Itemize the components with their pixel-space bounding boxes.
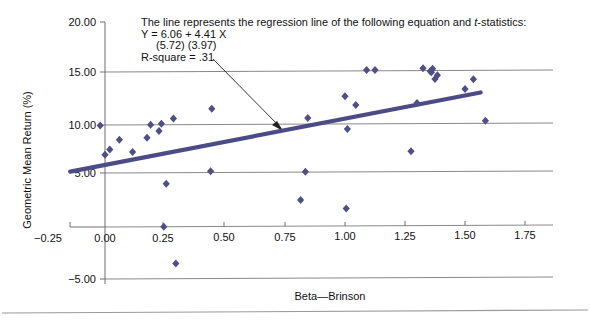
data-point-marker xyxy=(97,122,104,130)
scatter-chart-figure: 20.00 15.00 10.00 5.00 −5.00 −0.25 0.00 … xyxy=(0,0,590,320)
data-point-marker xyxy=(101,151,108,159)
annotation-leader-arrow xyxy=(213,59,283,131)
annotation-line-1-suffix: -statistics: xyxy=(477,16,526,28)
y-tick-label-neg5: −5.00 xyxy=(68,273,96,285)
bottom-divider xyxy=(2,310,588,313)
x-tick-label-1.00: 1.00 xyxy=(334,230,355,242)
gridline-0 xyxy=(105,225,553,227)
leader-line xyxy=(213,59,281,128)
chart-svg: 20.00 15.00 10.00 5.00 −5.00 −0.25 0.00 … xyxy=(0,0,590,320)
y-axis-title: Geometric Mean Return (%) xyxy=(21,91,33,229)
data-point-marker xyxy=(461,85,468,93)
data-point-marker xyxy=(470,75,477,83)
data-point-marker xyxy=(160,223,167,231)
data-point-marker xyxy=(302,168,309,176)
data-point-marker xyxy=(343,204,350,212)
x-tick-label-1.25: 1.25 xyxy=(394,230,415,242)
data-point-marker xyxy=(363,66,370,74)
y-tick-label-15: 15.00 xyxy=(68,66,96,78)
gridline-5 xyxy=(105,171,553,173)
data-point-marker xyxy=(344,125,351,133)
data-point-marker xyxy=(208,105,215,113)
x-tick-label-0.75: 0.75 xyxy=(274,231,295,243)
x-tick-labels: −0.25 0.00 0.25 0.50 0.75 1.00 1.25 1.50… xyxy=(34,229,536,244)
regression-annotation: The line represents the regression line … xyxy=(141,16,526,63)
data-point-marker xyxy=(116,136,123,144)
data-point-marker xyxy=(170,115,177,123)
data-point-marker xyxy=(158,120,165,128)
x-tick-label-1.50: 1.50 xyxy=(454,229,475,241)
y-tick-label-10: 10.00 xyxy=(68,119,96,131)
x-axis-title: Beta—Brinson xyxy=(295,290,366,302)
data-point-marker xyxy=(143,134,150,142)
data-point-marker xyxy=(172,260,179,268)
data-point-marker xyxy=(341,92,348,100)
x-tick-label-0.00: 0.00 xyxy=(94,232,115,244)
data-point-marker xyxy=(352,101,359,109)
x-tick-label-0.25: 0.25 xyxy=(152,232,173,244)
x-tick-label-0.50: 0.50 xyxy=(213,231,234,243)
gridline-neg5 xyxy=(105,277,553,279)
data-point-marker xyxy=(163,180,170,188)
y-tick-labels: 20.00 15.00 10.00 5.00 −5.00 xyxy=(68,16,96,285)
data-point-marker xyxy=(147,121,154,129)
data-point-marker xyxy=(129,148,136,156)
data-point-marker xyxy=(371,66,378,74)
data-point-marker xyxy=(304,114,311,122)
data-point-marker xyxy=(297,196,304,204)
annotation-line-1-prefix: The line represents the regression line … xyxy=(141,16,474,28)
data-point-marker xyxy=(155,127,162,135)
annotation-line-1: The line represents the regression line … xyxy=(141,16,526,28)
x-tick-label-neg0.25: −0.25 xyxy=(34,232,62,244)
gridlines xyxy=(105,70,553,279)
data-point-marker xyxy=(207,167,214,175)
x-tick-label-1.75: 1.75 xyxy=(514,229,535,241)
gridline-15 xyxy=(105,70,553,72)
data-point-marker xyxy=(407,147,414,155)
annotation-line-4: R-square = .31 xyxy=(141,51,214,63)
data-point-marker xyxy=(106,146,113,154)
annotation-line-3: (5.72) (3.97) xyxy=(156,39,217,51)
y-tick-label-20: 20.00 xyxy=(68,16,96,28)
